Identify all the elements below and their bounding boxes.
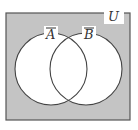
set-b-label: B <box>83 27 94 42</box>
venn-diagram: U A B <box>0 0 138 130</box>
set-a-label: A <box>45 27 55 42</box>
universe-label: U <box>108 9 120 24</box>
